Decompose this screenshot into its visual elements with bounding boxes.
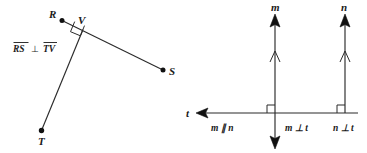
caption-segment-tv: TV — [43, 44, 56, 54]
right-angle-mark-mt — [267, 105, 275, 113]
relation-m-parallel-n: m ∥ n — [211, 123, 233, 134]
perpendicular-segments-diagram: R V S T RS ⊥ TV — [0, 0, 184, 153]
relation-n-perp-t: n ⊥ t — [333, 123, 354, 133]
point-t — [39, 128, 44, 133]
geometry-figure: R V S T RS ⊥ TV — [0, 0, 367, 153]
parallel-perpendicular-lines-diagram: m n t m ∥ n m ⊥ t n ⊥ t — [184, 0, 367, 153]
line-label-m: m — [271, 1, 280, 13]
line-label-t: t — [186, 107, 190, 119]
point-label-v: V — [78, 14, 87, 26]
point-r — [60, 18, 65, 23]
caption-segment-rs: RS — [12, 44, 25, 54]
point-label-r: R — [48, 8, 56, 20]
left-diagram-canvas: R V S T RS ⊥ TV — [0, 0, 184, 153]
point-label-t: T — [38, 135, 46, 147]
caption-rs-perp-tv: RS ⊥ TV — [12, 43, 57, 55]
right-diagram-canvas: m n t m ∥ n m ⊥ t n ⊥ t — [184, 0, 367, 153]
caption-perp-symbol: ⊥ — [31, 44, 39, 54]
relation-m-perp-t: m ⊥ t — [285, 123, 308, 133]
line-label-n: n — [341, 1, 347, 13]
point-s — [161, 68, 166, 73]
right-angle-mark-nt — [337, 105, 345, 113]
point-label-s: S — [169, 65, 175, 77]
